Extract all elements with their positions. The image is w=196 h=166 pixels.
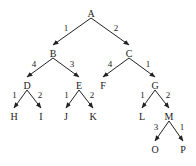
edge-weight-D-I: 2 <box>38 90 43 100</box>
node-I: I <box>39 111 42 122</box>
edge-weight-B-E: 3 <box>70 59 75 69</box>
node-P: P <box>180 144 186 155</box>
node-H: H <box>10 111 17 122</box>
edge-weight-C-G: 1 <box>146 59 151 69</box>
edge-weight-A-B: 1 <box>64 23 69 33</box>
node-J: J <box>64 111 68 122</box>
edge-B-E-arrow <box>53 58 79 77</box>
tree-diagram: 12434112121231 ABCDEFGHIJKLMOP <box>0 0 196 166</box>
nodes-layer: ABCDEFGHIJKLMOP <box>10 8 186 155</box>
edge-weights-layer: 12434112121231 <box>12 23 184 133</box>
edge-weight-B-D: 4 <box>32 59 37 69</box>
tree-canvas: 12434112121231 ABCDEFGHIJKLMOP <box>0 0 196 166</box>
edge-weight-E-K: 2 <box>90 90 95 100</box>
node-K: K <box>89 111 97 122</box>
edge-weight-A-C: 2 <box>114 23 119 33</box>
node-G: G <box>151 80 158 91</box>
node-F: F <box>100 80 106 91</box>
node-E: E <box>76 80 82 91</box>
edge-weight-M-O: 3 <box>154 122 159 132</box>
edge-weight-E-J: 1 <box>64 90 69 100</box>
edge-weight-C-F: 4 <box>108 59 113 69</box>
node-A: A <box>87 8 95 19</box>
node-O: O <box>151 144 158 155</box>
edge-weight-D-H: 1 <box>12 90 17 100</box>
edge-A-B-arrow <box>53 18 91 45</box>
node-B: B <box>50 48 57 59</box>
node-C: C <box>126 48 133 59</box>
node-L: L <box>139 111 145 122</box>
edge-weight-M-P: 1 <box>180 122 185 132</box>
node-D: D <box>23 80 30 91</box>
edge-A-C-arrow <box>91 18 129 45</box>
edge-C-G-arrow <box>129 58 155 77</box>
node-M: M <box>165 111 174 122</box>
edge-weight-G-L: 1 <box>140 90 145 100</box>
edge-weight-G-M: 2 <box>166 90 171 100</box>
